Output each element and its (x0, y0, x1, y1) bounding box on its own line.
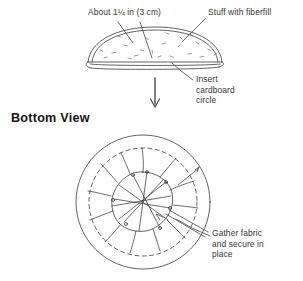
cardboard-disc-bottom (91, 67, 219, 69)
cardboard-disc-top (90, 64, 220, 66)
leader-lines (118, 18, 210, 236)
label-stuff-with-fiberfill: Stuff with fiberfill (208, 7, 271, 18)
down-arrow (151, 78, 160, 107)
base-left-end (86, 62, 91, 68)
label-gather-fabric: Gather fabric and secure in place (212, 228, 264, 260)
label-height-measure: About 1¼ in (3 cm) (88, 7, 161, 18)
needle-direction-marks (156, 167, 199, 220)
label-insert-cardboard-circle: Insert cardboard circle (196, 74, 235, 106)
base-right-end (219, 62, 224, 67)
diagram-canvas: Bottom View About 1¼ in (3 cm) Stuff wit… (0, 0, 303, 281)
bottom-view-heading: Bottom View (11, 111, 90, 125)
pincushion-side-profile (86, 27, 224, 69)
fiberfill-specks (100, 33, 217, 59)
pincushion-bottom-view (76, 135, 210, 269)
